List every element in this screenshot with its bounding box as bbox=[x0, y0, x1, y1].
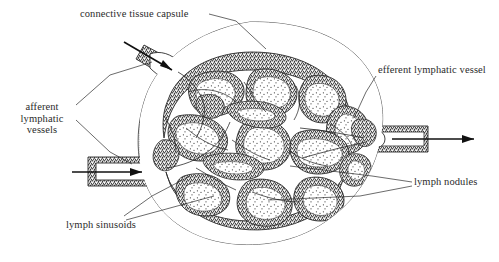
leader-line-afferent-upper bbox=[76, 62, 152, 105]
lymph-node-interior bbox=[140, 20, 390, 250]
label-afferent-lymphatic-vessels: afferentlymphaticvessels bbox=[8, 101, 76, 136]
label-connective-tissue-capsule: connective tissue capsule bbox=[80, 8, 189, 20]
label-lymph-sinusoids: lymph sinusoids bbox=[66, 219, 136, 231]
label-afferent-line-1: afferent bbox=[25, 101, 58, 112]
lymph-node-figure: connective tissue capsule efferent lymph… bbox=[0, 0, 499, 262]
label-lymph-nodules: lymph nodules bbox=[414, 176, 477, 188]
label-afferent-line-2: lymphatic bbox=[21, 113, 64, 124]
label-efferent-lymphatic-vessel: efferent lymphatic vessel bbox=[378, 64, 486, 76]
lymph-nodule bbox=[340, 154, 371, 186]
lymph-nodule bbox=[294, 177, 344, 221]
lymph-nodule bbox=[196, 94, 224, 118]
label-afferent-line-3: vessels bbox=[27, 124, 57, 135]
